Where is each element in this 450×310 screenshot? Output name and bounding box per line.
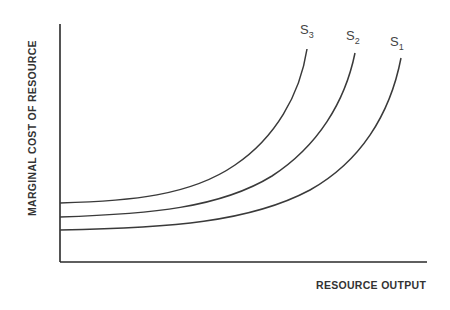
chart-canvas (0, 0, 450, 310)
series-label-s1: S1 (390, 34, 404, 52)
series-label-s2: S2 (346, 28, 360, 46)
curve-s3 (60, 49, 307, 203)
curve-s1 (60, 58, 401, 230)
curve-s2 (60, 53, 355, 217)
y-axis-label: MARGINAL COST OF RESOURCE (26, 40, 38, 216)
x-axis-label: RESOURCE OUTPUT (316, 279, 426, 291)
series-label-s3: S3 (300, 22, 314, 40)
